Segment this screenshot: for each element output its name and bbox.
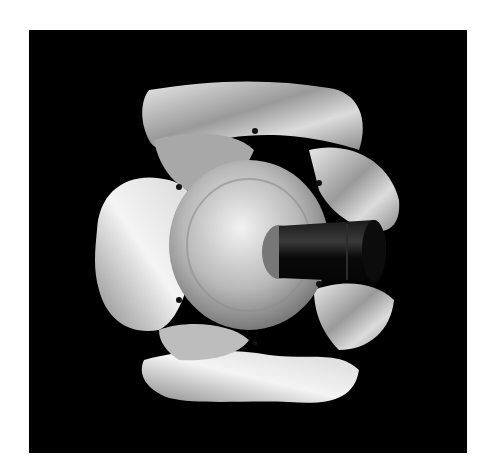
blade-bottom: [142, 351, 359, 403]
rivet: [252, 128, 258, 134]
rivet: [176, 184, 182, 190]
rivet: [253, 341, 258, 346]
rivet: [316, 281, 322, 287]
rivet: [316, 180, 322, 186]
blade-right-lower: [314, 283, 394, 350]
impeller-illustration: [29, 30, 467, 453]
rivet: [176, 297, 182, 303]
product-photo: [29, 30, 467, 453]
